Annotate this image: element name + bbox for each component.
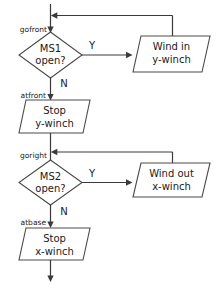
arrowhead-ms1-yes xyxy=(126,52,133,58)
flowchart-svg: gofront MS1 open? Y Wind in y-winch N at… xyxy=(0,0,216,289)
point-label-atfront: atfront xyxy=(21,91,46,100)
decision-ms1-line1: MS1 xyxy=(40,43,61,54)
decision-ms2-line2: open? xyxy=(35,183,65,194)
arrowhead-loop2 xyxy=(51,149,58,155)
point-label-goright: goright xyxy=(20,151,47,160)
process-wind-in-y-line2: y-winch xyxy=(152,54,190,65)
point-label-atbase: atbase xyxy=(21,218,47,227)
process-stop-y-line2: y-winch xyxy=(35,118,73,129)
arrowhead-loop1 xyxy=(51,12,58,18)
edge-label-ms1-yes: Y xyxy=(88,40,96,51)
process-stop-x-line1: Stop xyxy=(43,233,66,244)
arrowhead-exit-bottom xyxy=(47,276,53,283)
flowchart-canvas: gofront MS1 open? Y Wind in y-winch N at… xyxy=(0,0,216,289)
process-stop-y-line1: Stop xyxy=(43,105,66,116)
edge-label-ms2-yes: Y xyxy=(88,168,96,179)
arrowhead-ms2-yes xyxy=(126,179,133,185)
edge-label-ms2-no: N xyxy=(60,206,67,217)
edge-label-ms1-no: N xyxy=(60,78,67,89)
process-wind-out-x-line1: Wind out xyxy=(149,168,194,179)
decision-ms2-line1: MS2 xyxy=(40,171,61,182)
process-wind-out-x-line2: x-winch xyxy=(152,181,191,192)
arrowhead-ms2-no xyxy=(47,222,53,229)
process-stop-x-line2: x-winch xyxy=(35,246,74,257)
process-wind-in-y-line1: Wind in xyxy=(153,41,190,52)
decision-ms1-line2: open? xyxy=(35,55,65,66)
point-label-gofront: gofront xyxy=(20,25,47,34)
